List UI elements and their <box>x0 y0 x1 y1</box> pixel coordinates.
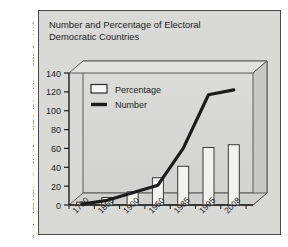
plot-top-face <box>69 61 267 73</box>
y-tick-label: 40 <box>51 163 61 173</box>
source-credit-title: Global Trends 2005 <box>32 119 34 164</box>
source-credit-prefix: Data from 1700-1985 based on <box>32 165 34 238</box>
y-tick-60: 60 <box>51 144 69 154</box>
y-tick-0: 0 <box>56 201 69 211</box>
y-tick-label: 80 <box>51 125 61 135</box>
legend-label-percentage: Percentage <box>115 85 161 95</box>
legend-swatch-percentage-icon <box>91 85 107 94</box>
chart-frame: Number and Percentage of Electoral Democ… <box>38 10 281 235</box>
chart-plot-svg: 140 120 100 80 60 <box>39 11 282 236</box>
y-tick-140: 140 <box>46 69 69 79</box>
y-tick-80: 80 <box>51 125 69 135</box>
y-tick-label: 60 <box>51 144 61 154</box>
figure-container: Data from 1700-1985 based on Global Tren… <box>0 0 288 247</box>
y-tick-label: 140 <box>46 69 61 79</box>
y-tick-label: 20 <box>51 182 61 192</box>
source-credit-note: Data from 1700-1985 based on Global Tren… <box>0 0 34 247</box>
y-tick-40: 40 <box>51 163 69 173</box>
legend-item-percentage[interactable]: Percentage <box>91 85 161 95</box>
y-tick-label: 100 <box>46 106 61 116</box>
plot-right-face <box>253 61 267 205</box>
y-tick-120: 120 <box>46 87 69 97</box>
y-axis-ticks: 140 120 100 80 60 <box>46 69 69 211</box>
y-tick-label: 0 <box>56 201 61 211</box>
y-tick-20: 20 <box>51 182 69 192</box>
source-credit-text: Data from 1700-1985 based on Global Tren… <box>32 10 34 238</box>
y-tick-100: 100 <box>46 106 69 116</box>
legend-label-number: Number <box>115 100 147 110</box>
y-tick-label: 120 <box>46 87 61 97</box>
